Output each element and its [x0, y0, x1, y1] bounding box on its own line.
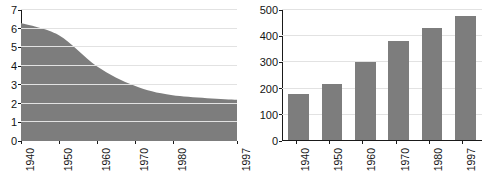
left-y-tick-mark — [18, 47, 21, 48]
right-x-tick-label: 1960 — [366, 148, 377, 171]
left-x-tick-mark — [173, 141, 174, 144]
bar — [322, 84, 343, 140]
left-y-tick-label: 1 — [11, 117, 17, 128]
chart-size-of-average-farm: SIZE OF AVERAGE FARM (IN ACRES) 01002003… — [242, 0, 484, 177]
right-y-axis-line — [282, 10, 283, 141]
bar — [422, 28, 443, 140]
left-gridline — [21, 103, 237, 104]
left-gridline — [21, 9, 237, 10]
left-y-tick-label: 7 — [11, 5, 17, 16]
left-gridline — [21, 28, 237, 29]
left-y-tick-label: 2 — [11, 98, 17, 109]
right-y-tick-mark — [279, 114, 282, 115]
right-y-tick-label: 300 — [260, 57, 278, 68]
left-x-tick-label: 1980 — [177, 148, 188, 171]
chart-number-of-farms: NUMBER OF FARMS (IN MILLIONS) 0123456719… — [0, 0, 242, 177]
left-y-tick-mark — [18, 84, 21, 85]
bar — [388, 41, 409, 140]
left-x-tick-mark — [237, 141, 238, 144]
right-x-tick-mark — [462, 141, 463, 144]
left-x-tick-label: 1950 — [63, 148, 74, 171]
left-y-tick-mark — [18, 66, 21, 67]
left-x-tick-mark — [135, 141, 136, 144]
bar — [355, 62, 376, 140]
right-gridline — [282, 114, 482, 115]
right-x-tick-mark — [362, 141, 363, 144]
right-x-tick-mark — [396, 141, 397, 144]
bar — [288, 94, 309, 140]
right-x-tick-mark — [296, 141, 297, 144]
left-y-tick-mark — [18, 10, 21, 11]
left-x-tick-mark — [59, 141, 60, 144]
right-y-tick-label: 0 — [272, 136, 278, 147]
right-y-tick-label: 200 — [260, 83, 278, 94]
right-plot-area: 0100200300400500194019501960197019801997 — [282, 10, 482, 141]
left-y-tick-label: 0 — [11, 136, 17, 147]
left-x-tick-label: 1960 — [101, 148, 112, 171]
left-gridline — [21, 84, 237, 85]
right-y-tick-label: 100 — [260, 109, 278, 120]
left-x-tick-mark — [21, 141, 22, 144]
right-x-tick-mark — [429, 141, 430, 144]
left-plot-area: 01234567194019501960197019801997 — [21, 10, 237, 141]
right-y-tick-mark — [279, 62, 282, 63]
left-x-tick-label: 1970 — [139, 148, 150, 171]
left-gridline — [21, 65, 237, 66]
right-y-tick-mark — [279, 10, 282, 11]
right-x-tick-label: 1950 — [333, 148, 344, 171]
right-x-tick-label: 1970 — [400, 148, 411, 171]
right-y-tick-label: 400 — [260, 31, 278, 42]
left-y-tick-mark — [18, 122, 21, 123]
left-y-tick-mark — [18, 103, 21, 104]
right-gridline — [282, 35, 482, 36]
bar — [455, 16, 476, 140]
right-x-axis-line — [282, 140, 482, 141]
right-y-tick-mark — [279, 88, 282, 89]
right-y-tick-mark — [279, 141, 282, 142]
left-x-tick-label: 1940 — [25, 148, 36, 171]
right-y-tick-label: 500 — [260, 5, 278, 16]
left-y-tick-label: 4 — [11, 61, 17, 72]
right-gridline — [282, 61, 482, 62]
left-y-tick-label: 5 — [11, 42, 17, 53]
left-gridline — [21, 46, 237, 47]
figure-two-charts: NUMBER OF FARMS (IN MILLIONS) 0123456719… — [0, 0, 484, 177]
left-y-tick-label: 6 — [11, 23, 17, 34]
left-y-tick-mark — [18, 28, 21, 29]
left-y-tick-label: 3 — [11, 79, 17, 90]
right-x-tick-label: 1940 — [300, 148, 311, 171]
right-x-tick-mark — [329, 141, 330, 144]
right-gridline — [282, 88, 482, 89]
right-gridline — [282, 9, 482, 10]
right-x-tick-label: 1980 — [433, 148, 444, 171]
right-y-tick-mark — [279, 36, 282, 37]
right-x-tick-label: 1997 — [466, 148, 477, 171]
left-gridline — [21, 121, 237, 122]
left-x-tick-mark — [97, 141, 98, 144]
